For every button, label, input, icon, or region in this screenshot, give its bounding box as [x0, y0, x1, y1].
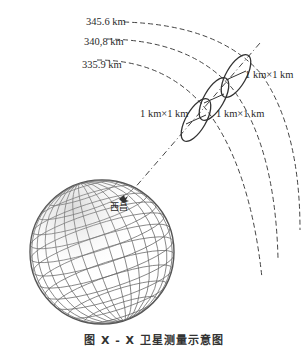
cell-label-outer: 1 km×1 km: [245, 70, 294, 81]
station-label: 西昌: [110, 203, 128, 212]
figure-caption: 图 X - X 卫星测量示意图: [0, 331, 308, 347]
cell-label-inner: 1 km×1 km: [140, 109, 189, 120]
orbit-label-middle: 340,8 km: [84, 37, 124, 48]
cell-label-middle: 1 km×1 km: [216, 109, 265, 120]
earth-globe: [13, 162, 192, 342]
line-of-sight: [120, 43, 260, 205]
orbit-label-inner: 335.9 km: [82, 60, 122, 71]
measurement-cell-inner: [175, 94, 216, 146]
orbit-label-outer: 345.6 km: [86, 17, 126, 28]
